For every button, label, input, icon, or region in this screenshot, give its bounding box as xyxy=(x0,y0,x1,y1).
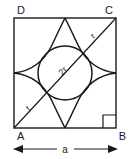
diagonal-label-lower: r xyxy=(23,103,32,112)
vertex-label-b: B xyxy=(119,130,126,142)
circle-diameter-label: 2r xyxy=(56,65,69,78)
vertex-label-c: C xyxy=(105,4,113,16)
figure-canvas: D C A B 2r r r a xyxy=(0,0,131,159)
side-dimension-label: a xyxy=(62,144,68,155)
vertex-label-a: A xyxy=(17,130,25,142)
dimension-arrowhead-left xyxy=(13,145,23,153)
dimension-arrowhead-right xyxy=(108,145,118,153)
vertex-label-d: D xyxy=(17,4,25,16)
geometry-figure: D C A B 2r r r a xyxy=(0,0,131,159)
right-angle-marker xyxy=(103,115,116,128)
diagonal-label-upper: r xyxy=(88,31,97,40)
